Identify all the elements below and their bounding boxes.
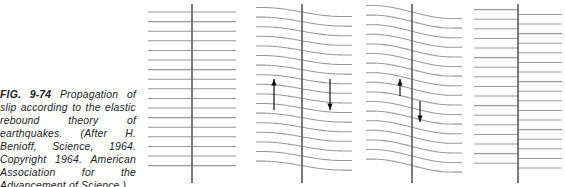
strata-line-bent [366, 121, 462, 134]
strata-group [366, 6, 462, 173]
strata-line-bent [256, 65, 352, 74]
strata-line-bent [366, 6, 462, 19]
figure-9-74: FIG. 9-74 Propagation of slip according … [0, 0, 565, 187]
strata-line-bent [366, 73, 462, 86]
strata-line-bent [256, 8, 352, 17]
strata-line-bent [366, 82, 462, 95]
strata-line-bent [256, 113, 352, 122]
strata-line-bent [366, 150, 462, 163]
left-shear-arrow [397, 79, 402, 96]
strata-line-bent [256, 75, 352, 84]
strata-line-bent [256, 36, 352, 45]
strata-line-bent [366, 102, 462, 115]
arrow-head-down [327, 104, 332, 111]
strata-line-bent [366, 63, 462, 76]
strata-line-bent [366, 44, 462, 57]
strata-line-bent [256, 142, 352, 151]
strata-line-bent [256, 152, 352, 161]
strata-line-bent [256, 132, 352, 141]
strata-line-bent [256, 123, 352, 132]
strata-line-bent [366, 130, 462, 143]
strata-line-bent [366, 92, 462, 105]
strata-line-bent [256, 27, 352, 36]
strata-group [256, 8, 352, 171]
diagram-panel-4 [470, 0, 565, 187]
diagram-panel-2 [252, 0, 356, 187]
arrow-head-up [271, 79, 276, 86]
diagram-panel-3 [362, 0, 466, 187]
strata-line-bent [366, 25, 462, 38]
strata-line-bent [256, 46, 352, 55]
strata-line-bent [256, 17, 352, 26]
strata-line-bent [256, 94, 352, 103]
strata-line-bent [366, 159, 462, 172]
diagram-panel-1 [140, 0, 244, 187]
diagram-panels [0, 0, 565, 187]
strata-line-bent [366, 34, 462, 47]
strata-line-bent [256, 84, 352, 93]
strata-line-bent [366, 111, 462, 124]
strata-line-bent [256, 56, 352, 65]
strata-line-bent [366, 140, 462, 153]
strata-line-bent [256, 161, 352, 170]
arrow-head-up [397, 79, 402, 86]
strata-line-bent [366, 54, 462, 67]
strata-line-bent [256, 104, 352, 113]
strata-line-bent [366, 15, 462, 28]
